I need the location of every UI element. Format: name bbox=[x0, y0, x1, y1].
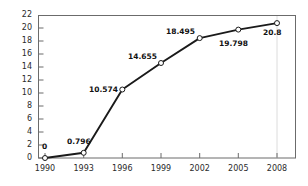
y-tick-label-4: 4 bbox=[8, 128, 32, 136]
x-tick-label-2005: 2005 bbox=[220, 165, 256, 173]
data-point bbox=[81, 150, 86, 155]
y-tick-label-8: 8 bbox=[8, 102, 32, 110]
y-tick-label-12: 12 bbox=[8, 76, 32, 84]
line-chart: 22 20 18 16 14 12 10 8 6 4 2 0 1990 1993… bbox=[0, 0, 308, 186]
y-tick-label-10: 10 bbox=[8, 89, 32, 97]
point-label-1996: 10.574 bbox=[89, 86, 118, 94]
x-tick-label-2002: 2002 bbox=[182, 165, 218, 173]
point-label-2002: 18.495 bbox=[166, 28, 195, 36]
x-tick-label-1990: 1990 bbox=[27, 165, 63, 173]
y-tick-label-14: 14 bbox=[8, 63, 32, 71]
data-point bbox=[197, 36, 202, 41]
point-label-1999: 14.655 bbox=[128, 53, 157, 61]
y-tick-label-0: 0 bbox=[8, 154, 32, 162]
point-label-1993: 0.796 bbox=[67, 138, 91, 146]
chart-plot-area bbox=[0, 0, 308, 186]
y-tick-label-18: 18 bbox=[8, 37, 32, 45]
y-axis-ticks bbox=[39, 16, 44, 159]
x-tick-label-2008: 2008 bbox=[259, 165, 295, 173]
point-label-2008: 20.8 bbox=[263, 29, 282, 37]
data-point bbox=[236, 27, 241, 32]
y-tick-label-16: 16 bbox=[8, 50, 32, 58]
x-tick-label-1996: 1996 bbox=[104, 165, 140, 173]
point-label-1990: 0 bbox=[42, 143, 47, 151]
data-point bbox=[120, 87, 125, 92]
y-tick-label-2: 2 bbox=[8, 141, 32, 149]
data-point bbox=[43, 156, 48, 161]
y-tick-label-6: 6 bbox=[8, 115, 32, 123]
point-label-2005: 19.798 bbox=[219, 40, 248, 48]
y-tick-label-22: 22 bbox=[8, 11, 32, 19]
data-point bbox=[275, 21, 280, 26]
x-tick-label-1993: 1993 bbox=[66, 165, 102, 173]
y-tick-label-20: 20 bbox=[8, 24, 32, 32]
data-point bbox=[159, 61, 164, 66]
x-tick-label-1999: 1999 bbox=[143, 165, 179, 173]
